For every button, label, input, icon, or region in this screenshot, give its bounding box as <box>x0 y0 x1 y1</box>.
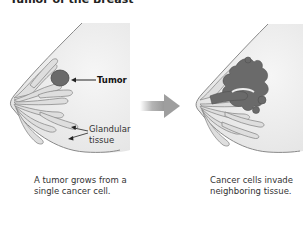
glandular-tissue-label-line2: tissue <box>89 135 114 145</box>
right-caption-line2: neighboring tissue. <box>210 186 293 197</box>
breast-invaded <box>196 24 303 152</box>
tumor-label: Tumor <box>97 75 127 85</box>
left-caption: A tumor grows from a single cancer cell. <box>34 175 127 197</box>
right-caption-line1: Cancer cells invade <box>210 175 293 186</box>
right-caption: Cancer cells invade neighboring tissue. <box>210 175 293 197</box>
glandular-tissue-label-line1: Glandular <box>89 124 130 134</box>
tumor-mass <box>51 70 69 86</box>
left-caption-line1: A tumor grows from a <box>34 175 127 186</box>
right-arrow-icon <box>140 94 180 118</box>
left-caption-line2: single cancer cell. <box>34 186 127 197</box>
